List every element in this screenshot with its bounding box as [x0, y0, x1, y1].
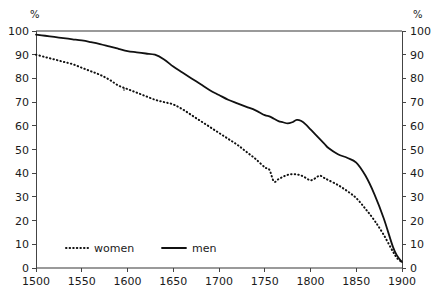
- x-tick-label: 1850: [342, 275, 370, 288]
- y-tick-label-left: 50: [15, 144, 29, 157]
- y-tick-label-left: 90: [15, 49, 29, 62]
- x-tick-label: 1800: [297, 275, 325, 288]
- y-tick-label-left: 0: [22, 262, 29, 275]
- y-tick-label-right: 0: [410, 262, 417, 275]
- y-tick-label-left: 20: [15, 215, 29, 228]
- y-tick-label-left: 10: [15, 238, 29, 251]
- y-tick-label-left: 100: [8, 25, 29, 38]
- y-axis-unit-label-right: %: [413, 9, 423, 20]
- legend-label-women: women: [94, 242, 134, 255]
- y-tick-label-right: 30: [410, 191, 424, 204]
- legend-label-men: men: [192, 242, 216, 255]
- y-tick-label-right: 40: [410, 167, 424, 180]
- y-tick-label-left: 60: [15, 120, 29, 133]
- y-tick-label-right: 90: [410, 49, 424, 62]
- x-tick-label: 1900: [388, 275, 416, 288]
- y-tick-label-right: 70: [410, 96, 424, 109]
- y-tick-label-right: 50: [410, 144, 424, 157]
- x-tick-label: 1600: [114, 275, 142, 288]
- y-tick-label-left: 30: [15, 191, 29, 204]
- y-tick-label-left: 40: [15, 167, 29, 180]
- line-chart: % % 0102030405060708090100 0102030405060…: [0, 0, 439, 297]
- x-tick-label: 1550: [68, 275, 96, 288]
- y-tick-label-right: 100: [410, 25, 431, 38]
- y-axis-unit-label-left: %: [30, 9, 40, 20]
- x-tick-label: 1500: [22, 275, 50, 288]
- y-tick-label-right: 20: [410, 215, 424, 228]
- x-tick-label: 1700: [205, 275, 233, 288]
- chart-container: % % 0102030405060708090100 0102030405060…: [0, 0, 439, 297]
- x-tick-label: 1750: [251, 275, 279, 288]
- y-tick-label-left: 70: [15, 96, 29, 109]
- y-tick-label-right: 80: [410, 72, 424, 85]
- y-tick-label-left: 80: [15, 72, 29, 85]
- x-tick-label: 1650: [159, 275, 187, 288]
- chart-background: [0, 0, 439, 297]
- y-tick-label-right: 60: [410, 120, 424, 133]
- y-tick-label-right: 10: [410, 238, 424, 251]
